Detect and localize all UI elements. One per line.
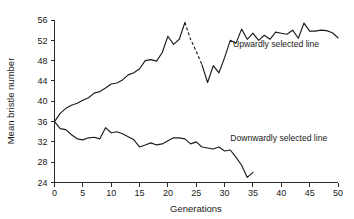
y-tick-label: 56 [37, 15, 47, 25]
annotations-group: Upwardly selected line Downwardly select… [230, 39, 327, 143]
x-tick-label: 15 [135, 188, 145, 198]
y-tick-label: 52 [37, 36, 47, 46]
upward-selected-line-dashed-segment [185, 23, 202, 65]
downward-selected-line [55, 122, 253, 178]
chart-canvas: 242832364044485256 05101520253035404550 … [0, 0, 354, 219]
y-tick-label: 28 [37, 157, 47, 167]
chart-figure: 242832364044485256 05101520253035404550 … [0, 0, 354, 219]
x-tick-label: 45 [305, 188, 315, 198]
x-tick-label: 40 [276, 188, 286, 198]
y-axis-title: Mean bristle number [5, 58, 16, 145]
x-tick-label: 35 [248, 188, 258, 198]
x-tick-label: 5 [80, 188, 85, 198]
y-tick-label: 44 [37, 76, 47, 86]
x-tick-group: 05101520253035404550 [52, 183, 343, 199]
x-tick-label: 30 [220, 188, 230, 198]
x-axis-title: Generations [170, 203, 222, 214]
x-tick-label: 10 [106, 188, 116, 198]
y-tick-label: 32 [37, 137, 47, 147]
y-tick-label: 36 [37, 117, 47, 127]
y-tick-group: 242832364044485256 [37, 15, 54, 188]
downward-line-label: Downwardly selected line [230, 133, 327, 143]
upward-selected-line [55, 23, 339, 122]
upward-line-label: Upwardly selected line [233, 39, 319, 49]
x-tick-label: 0 [52, 188, 57, 198]
y-tick-label: 24 [37, 178, 47, 188]
x-tick-label: 20 [163, 188, 173, 198]
x-tick-label: 25 [191, 188, 201, 198]
y-tick-label: 40 [37, 96, 47, 106]
x-tick-label: 50 [333, 188, 343, 198]
y-tick-label: 48 [37, 56, 47, 66]
